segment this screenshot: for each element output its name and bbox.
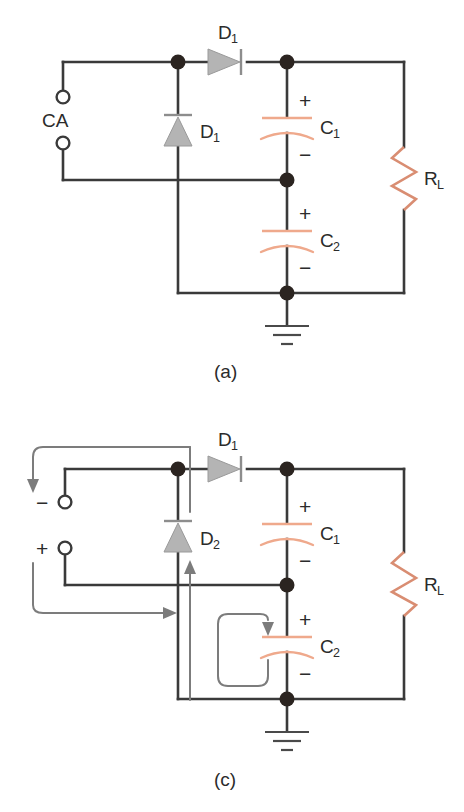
cap-c1-plus: + (299, 89, 311, 112)
resistor-label-sub: L (437, 178, 444, 192)
cap-c2-label: C (320, 230, 334, 251)
node-dot (171, 462, 186, 477)
diode-vertical-a (164, 115, 192, 146)
cap-c2-label-sub: 2 (333, 646, 340, 660)
cap-c1-label-sub: 1 (333, 127, 340, 141)
panel-a-nodes (171, 55, 295, 301)
ground-symbol-c (265, 732, 309, 750)
node-dot (280, 578, 295, 593)
cap-c2-minus: − (299, 662, 311, 685)
resistor-label-sub: L (437, 584, 444, 598)
terminal-minus (59, 496, 72, 509)
node-dot (280, 692, 295, 707)
node-dot (280, 462, 295, 477)
terminal-plus (59, 542, 72, 555)
resistor-rl-a-label: R L (424, 168, 444, 192)
cap-c1-minus: − (299, 143, 311, 166)
diode-v-label-sub: 2 (213, 538, 220, 552)
terminal-minus-sign: − (36, 491, 48, 514)
panel-c: − + D 1 D 2 C 1 + − (27, 429, 444, 790)
diode-h-label-sub: 1 (231, 439, 238, 453)
diode-vertical-c-label: D 2 (200, 528, 220, 552)
capacitor-c2-a-label: C 2 + − (299, 202, 340, 279)
cap-c1-label-sub: 1 (333, 533, 340, 547)
source-label: CA (42, 110, 69, 131)
node-dot (280, 286, 295, 301)
diode-vertical-a-label: D 1 (200, 121, 220, 145)
capacitor-c1-a-label: C 1 + − (299, 89, 340, 166)
diode-h-label: D (218, 429, 232, 450)
diode-horizontal-c-label: D 1 (218, 429, 238, 453)
cap-c1-label: C (320, 117, 334, 138)
diode-v-label-sub: 1 (213, 131, 220, 145)
panel-c-source-terminals: − + (36, 491, 71, 560)
resistor-label: R (424, 574, 438, 595)
circuit-figure: CA D 1 D 1 C 1 + − (0, 0, 464, 812)
cap-c1-label: C (320, 523, 334, 544)
panel-c-wires (65, 469, 404, 731)
resistor-rl-c (392, 552, 416, 616)
panel-a-source-terminals: CA (42, 91, 69, 150)
terminal-top (57, 91, 70, 104)
resistor-rl-c-label: R L (424, 574, 444, 598)
diode-v-label: D (200, 121, 214, 142)
caption-a: (a) (214, 361, 237, 382)
diode-horizontal-a-label: D 1 (218, 22, 238, 46)
diode-horizontal-a (208, 49, 241, 75)
caption-c: (c) (214, 769, 236, 790)
node-dot (280, 55, 295, 70)
cap-c1-minus: − (299, 549, 311, 572)
diode-vertical-c (164, 521, 192, 552)
diode-h-label: D (218, 22, 232, 43)
cap-c2-plus: + (299, 202, 311, 225)
flow-arrow-center-up (184, 560, 196, 700)
terminal-bottom (57, 137, 70, 150)
resistor-rl-a (392, 147, 416, 210)
diode-h-label-sub: 1 (231, 32, 238, 46)
flow-arrow-bottom-left (33, 563, 177, 619)
panel-a: CA D 1 D 1 C 1 + − (42, 22, 444, 382)
cap-c2-plus: + (299, 608, 311, 631)
ground-symbol-a (265, 326, 309, 344)
cap-c1-plus: + (299, 495, 311, 518)
cap-c2-label: C (320, 636, 334, 657)
capacitor-c1-c-label: C 1 + − (299, 495, 340, 572)
node-dot (171, 55, 186, 70)
diode-v-label: D (200, 528, 214, 549)
panel-a-wires (63, 62, 404, 325)
capacitor-c2-c-label: C 2 + − (299, 608, 340, 685)
node-dot (280, 173, 295, 188)
cap-c2-minus: − (299, 256, 311, 279)
terminal-plus-sign: + (36, 537, 48, 560)
flow-arrow-c2-loop (218, 614, 274, 686)
resistor-label: R (424, 168, 438, 189)
cap-c2-label-sub: 2 (333, 240, 340, 254)
diode-horizontal-c (208, 456, 241, 482)
